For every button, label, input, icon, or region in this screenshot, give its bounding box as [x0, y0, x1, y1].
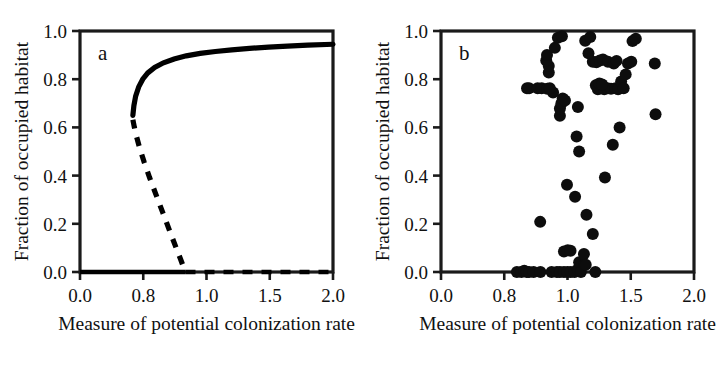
series-0-solid: [133, 44, 333, 115]
data-point: [614, 121, 626, 133]
x-tick-label-2: 1.0: [195, 285, 219, 306]
data-point: [578, 248, 590, 260]
x-tick-label-3: 1.5: [258, 285, 282, 306]
data-point: [580, 259, 592, 271]
data-point: [650, 108, 662, 120]
data-point: [534, 266, 546, 278]
data-point: [569, 191, 581, 203]
y-tick-label-2: 0.6: [43, 117, 67, 138]
scatter-points-group: [511, 30, 662, 278]
data-point: [584, 31, 596, 43]
x-tick-label-4: 2.0: [321, 285, 345, 306]
y-tick-label-5: 0.0: [43, 262, 67, 283]
x-tick-label-1: 0.8: [492, 285, 516, 306]
y-tick-label-1: 0.8: [43, 69, 67, 90]
data-point: [587, 228, 599, 240]
panel-b-plot: 0.00.81.01.52.01.00.80.60.40.20.0bMeasur…: [361, 0, 721, 371]
data-point: [580, 209, 592, 221]
data-point: [625, 56, 637, 68]
x-tick-label-0: 0.0: [429, 285, 453, 306]
panel-letter: a: [98, 41, 108, 65]
data-point: [618, 82, 630, 94]
x-tick-label-0: 0.0: [68, 285, 92, 306]
y-tick-label-4: 0.2: [404, 214, 428, 235]
y-tick-label-3: 0.4: [43, 166, 67, 187]
data-point: [561, 179, 573, 191]
panel-a: 0.00.81.01.52.01.00.80.60.40.20.0aMeasur…: [0, 0, 360, 371]
data-point: [559, 94, 571, 106]
x-axis-title: Measure of potential colonization rate: [58, 313, 355, 334]
data-point: [589, 266, 601, 278]
y-tick-label-2: 0.6: [404, 117, 428, 138]
y-tick-label-4: 0.2: [43, 214, 67, 235]
y-tick-label-3: 0.4: [404, 166, 428, 187]
x-tick-label-3: 1.5: [619, 285, 643, 306]
y-axis-title: Fraction of occupied habitat: [372, 41, 393, 261]
y-axis-title: Fraction of occupied habitat: [11, 41, 32, 261]
data-point: [534, 216, 546, 228]
data-point: [611, 55, 623, 67]
data-point: [544, 82, 556, 94]
data-point: [556, 30, 568, 42]
panel-letter: b: [459, 41, 470, 65]
series-1-dashed: [133, 120, 186, 272]
data-point: [596, 79, 608, 91]
data-point: [607, 139, 619, 151]
y-tick-label-5: 0.0: [404, 262, 428, 283]
x-tick-label-2: 1.0: [556, 285, 580, 306]
data-point: [572, 101, 584, 113]
data-point: [630, 33, 642, 45]
figure-root: 0.00.81.01.52.01.00.80.60.40.20.0aMeasur…: [0, 0, 721, 371]
data-point: [649, 58, 661, 70]
y-tick-label-0: 1.0: [404, 21, 428, 42]
panel-b: 0.00.81.01.52.01.00.80.60.40.20.0bMeasur…: [361, 0, 721, 371]
y-tick-label-1: 0.8: [404, 69, 428, 90]
panel-a-plot: 0.00.81.01.52.01.00.80.60.40.20.0aMeasur…: [0, 0, 360, 371]
x-tick-label-4: 2.0: [682, 285, 706, 306]
plot-frame: [80, 31, 333, 272]
data-point: [573, 146, 585, 158]
data-point: [571, 131, 583, 143]
data-point: [583, 47, 595, 59]
y-tick-label-0: 1.0: [43, 21, 67, 42]
data-point: [599, 172, 611, 184]
x-tick-label-1: 0.8: [131, 285, 155, 306]
x-axis-title: Measure of potential colonization rate: [419, 313, 716, 334]
data-point: [565, 245, 577, 257]
data-point: [549, 42, 561, 54]
data-point: [620, 68, 632, 80]
